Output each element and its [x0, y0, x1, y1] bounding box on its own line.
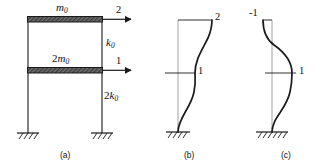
lower-mass-label: 2m0	[52, 53, 69, 66]
mode1-deflected-shape	[178, 20, 212, 132]
mode2-dof-label-mid: 1	[299, 66, 304, 77]
mode2-dof-label-top: -1	[249, 8, 258, 19]
panel-c-mode-two	[256, 20, 296, 138]
lower-stiffness-label: 2k0	[104, 90, 118, 103]
panel-caption-b: (b)	[184, 150, 194, 160]
mode1-dof-label-mid: 1	[198, 66, 203, 77]
upper-stiffness-label: k0	[106, 37, 115, 50]
panel-caption-a: (a)	[60, 150, 70, 160]
panel-a-frame	[17, 17, 131, 140]
lower-floor-beam	[28, 68, 103, 74]
mode1-base-support	[166, 132, 190, 138]
dof-label-top: 2	[116, 5, 121, 16]
frame-base-support-right	[91, 133, 113, 139]
panel-caption-c: (c)	[281, 150, 291, 160]
top-mass-label: m0	[56, 2, 68, 15]
mode2-deflected-shape	[263, 20, 292, 132]
dof-label-bottom: 1	[116, 56, 121, 67]
panel-b-mode-one	[165, 20, 212, 138]
top-floor-beam	[28, 17, 103, 23]
two-story-frame-mode-shape-figure	[0, 0, 330, 167]
mode2-base-support	[256, 132, 288, 138]
mode1-dof-label-top: 2	[215, 12, 220, 23]
frame-base-support-left	[17, 133, 39, 139]
